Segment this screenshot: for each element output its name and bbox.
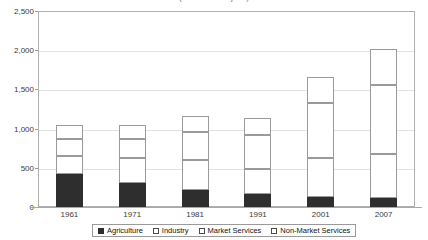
legend-item[interactable]: Non-Market Services [271,226,350,235]
y-axis-tick [35,89,38,90]
x-axis-tick-label: 2001 [312,210,330,219]
y-axis-tick-label: 0 [0,203,34,212]
y-axis-tick [35,11,38,12]
y-axis-tick [35,168,38,169]
legend-swatch-icon [199,228,205,234]
y-axis-tick [35,50,38,51]
y-axis-tick-label: 1,500 [0,85,34,94]
y-axis-tick-label: 2,000 [0,46,34,55]
legend-item[interactable]: Industry [153,226,189,235]
gridline [39,51,414,52]
gridline [39,130,414,131]
legend-item[interactable]: Agriculture [98,226,143,235]
legend-item-label: Agriculture [107,226,143,235]
x-axis-tick-label: 1991 [249,210,267,219]
chart-title: (thousands of jobs) [0,0,428,2]
y-axis-tick-label: 1,000 [0,124,34,133]
y-axis: 05001,0001,5002,0002,500 [0,0,34,240]
plot-area [38,11,415,207]
x-axis-tick-label: 1961 [61,210,79,219]
y-axis-tick-label: 2,500 [0,7,34,16]
y-axis-tick [35,129,38,130]
legend-item-label: Non-Market Services [280,226,350,235]
gridline [39,169,414,170]
legend-item-label: Industry [162,226,189,235]
legend-swatch-icon [153,228,159,234]
x-axis-tick-label: 1971 [123,210,141,219]
chart-legend: AgricultureIndustryMarket ServicesNon-Ma… [92,224,356,237]
legend-swatch-icon [98,228,104,234]
x-axis-tick-label: 1981 [186,210,204,219]
legend-item[interactable]: Market Services [199,226,262,235]
x-axis-tick-label: 2007 [375,210,393,219]
legend-item-label: Market Services [208,226,262,235]
y-axis-tick-label: 500 [0,163,34,172]
x-axis-line [30,207,422,208]
gridline [39,90,414,91]
stacked-bar-chart: (thousands of jobs) 05001,0001,5002,0002… [0,0,428,240]
legend-swatch-icon [271,228,277,234]
